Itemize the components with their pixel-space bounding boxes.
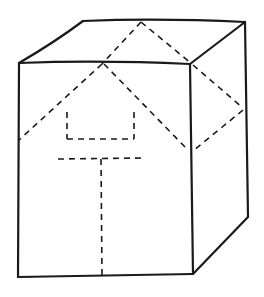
side-back-vertical-edge: [245, 22, 248, 217]
front-roof-left: [19, 64, 102, 140]
top-face-right-diagonal: [141, 22, 192, 64]
side-diamond-upper: [193, 65, 243, 108]
front-bottom-edge: [18, 274, 193, 277]
fold-lines: [19, 22, 243, 275]
front-roof-right: [104, 64, 186, 148]
front-right-edge: [190, 64, 193, 274]
cube-diagram: [0, 0, 264, 297]
front-left-edge: [18, 63, 19, 277]
top-left-slant-edge: [19, 21, 83, 63]
top-right-slant-edge: [190, 22, 245, 64]
cube-outline: [18, 20, 248, 277]
top-back-edge: [83, 20, 245, 22]
side-bottom-slant-edge: [193, 217, 248, 274]
front-t-horizontal: [58, 158, 143, 159]
top-face-left-diagonal: [102, 22, 141, 64]
front-t-vertical: [101, 159, 102, 275]
side-diamond-lower: [193, 110, 243, 151]
